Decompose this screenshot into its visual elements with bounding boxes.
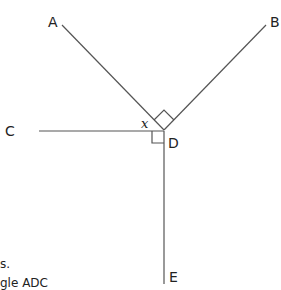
right-angle-marker-adb xyxy=(154,110,174,120)
point-label-b: B xyxy=(270,15,280,29)
segment-db xyxy=(164,25,266,130)
caption-fragment-1: s. xyxy=(0,258,10,270)
point-label-d: D xyxy=(168,136,179,150)
point-label-c: C xyxy=(5,124,15,138)
angle-variable-x: x xyxy=(141,117,148,130)
caption-fragment-2: gle ADC xyxy=(0,277,48,289)
point-label-e: E xyxy=(169,270,178,284)
segment-da xyxy=(62,25,164,130)
point-label-a: A xyxy=(48,15,58,29)
right-angle-marker-cde xyxy=(152,131,164,143)
